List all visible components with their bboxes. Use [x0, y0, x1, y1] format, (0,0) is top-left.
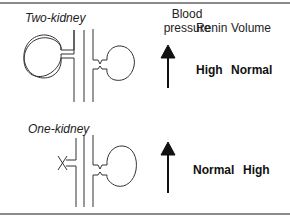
up-arrow-icon	[161, 45, 175, 88]
removed-kidney-icon	[58, 138, 76, 207]
kidney-drawings	[0, 0, 290, 219]
up-arrow-icon-2	[161, 142, 175, 193]
right-kidney-clipped-icon	[93, 29, 134, 102]
left-kidney-icon	[24, 30, 74, 102]
kidney-model-diagram: Blood pressure Renin Volume Two-kidney H…	[0, 0, 290, 219]
one-kidney-clipped-icon	[93, 135, 136, 207]
